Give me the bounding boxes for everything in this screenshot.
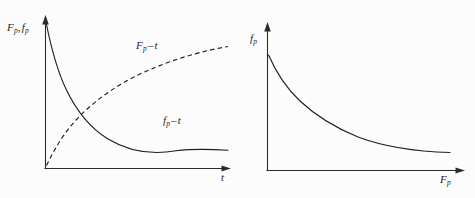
right-x-axis-label-F: F xyxy=(440,173,447,185)
curve-label-Fp-t-t: t xyxy=(154,39,157,51)
right-y-axis-label: fp xyxy=(250,33,257,46)
left-y-axis-label: Fp,fp xyxy=(7,22,29,35)
right-y-axis-label-subscript: p xyxy=(253,37,257,46)
curve-label-Fp-t-F: F xyxy=(136,39,143,51)
curve-label-fp-t-t: t xyxy=(178,114,181,126)
right-x-axis-arrowhead-icon xyxy=(456,167,466,173)
left-x-axis-label-t: t xyxy=(221,171,224,183)
figure-drawing xyxy=(0,0,475,198)
right-x-axis-label-subscript: p xyxy=(447,178,451,187)
curve-label-fp-t: fp–t xyxy=(163,115,181,128)
right-curve-fp-vs-Fp xyxy=(269,55,451,153)
left-y-axis-label-f-subscript: p xyxy=(25,26,29,35)
left-x-axis-label: t xyxy=(221,172,224,183)
curve-label-fp-t-dash: – xyxy=(170,114,178,126)
figure-container: Fp,fp t Fp–t fp–t fp Fp xyxy=(0,0,475,198)
left-curve-Fp-t xyxy=(47,47,229,166)
left-y-axis-label-F: F xyxy=(7,21,14,33)
curve-label-Fp-t: Fp–t xyxy=(136,40,158,53)
right-y-axis-arrowhead-icon xyxy=(264,22,271,32)
left-y-axis-arrowhead-icon xyxy=(42,15,49,25)
right-panel xyxy=(264,22,465,174)
right-x-axis-label: Fp xyxy=(440,174,451,187)
